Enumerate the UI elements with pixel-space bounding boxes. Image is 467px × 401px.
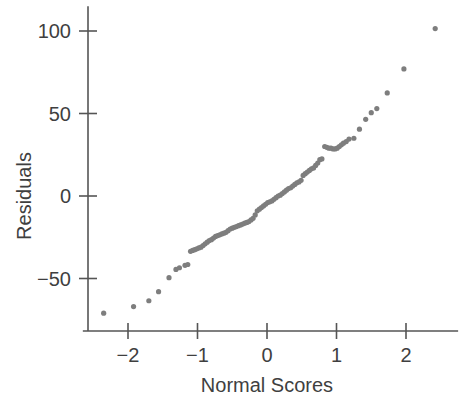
- data-point: [319, 156, 324, 161]
- x-tick-label-1: −1: [186, 344, 209, 366]
- axis-ticks-group: [79, 31, 406, 339]
- y-tick-label-3: 100: [38, 20, 71, 42]
- data-point: [374, 106, 379, 111]
- data-point: [369, 110, 374, 115]
- axis-tick-labels-group: −2−1012−50050100: [37, 20, 412, 366]
- data-point: [346, 136, 351, 141]
- axes-group: [83, 6, 458, 331]
- x-tick-label-3: 1: [331, 344, 342, 366]
- qq-plot-scatter-chart: −2−1012−50050100 Normal Scores Residuals: [0, 0, 467, 401]
- data-point: [101, 311, 106, 316]
- data-point: [185, 262, 190, 267]
- x-tick-label-4: 2: [400, 344, 411, 366]
- data-point: [146, 298, 151, 303]
- data-point: [166, 275, 171, 280]
- data-points-group: [101, 26, 438, 316]
- chart-figure: −2−1012−50050100 Normal Scores Residuals: [0, 0, 467, 401]
- x-tick-label-0: −2: [117, 344, 140, 366]
- data-point: [131, 304, 136, 309]
- data-point: [298, 178, 303, 183]
- y-tick-label-1: 0: [60, 185, 71, 207]
- data-point: [401, 66, 406, 71]
- data-point: [385, 90, 390, 95]
- data-point: [357, 127, 362, 132]
- data-point: [351, 136, 356, 141]
- x-axis-title: Normal Scores: [201, 374, 333, 396]
- y-tick-label-0: −50: [37, 268, 71, 290]
- data-point: [433, 26, 438, 31]
- y-tick-label-2: 50: [49, 103, 71, 125]
- data-point: [156, 289, 161, 294]
- data-point: [177, 265, 182, 270]
- y-axis-title: Residuals: [13, 152, 35, 240]
- x-tick-label-2: 0: [261, 344, 272, 366]
- data-point: [363, 117, 368, 122]
